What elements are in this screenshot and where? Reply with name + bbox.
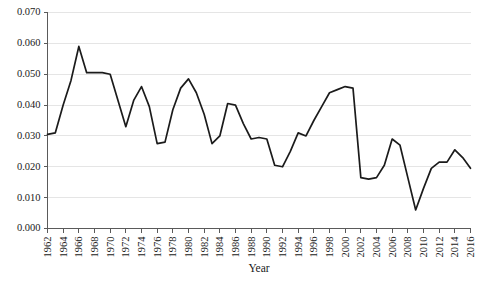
x-tick-label: 1976 bbox=[152, 237, 163, 258]
y-tick-label: 0.060 bbox=[17, 37, 41, 48]
chart-canvas: 0.0000.0100.0200.0300.0400.0500.0600.070… bbox=[0, 0, 479, 283]
x-tick-label: 1990 bbox=[261, 237, 272, 258]
x-tick-label: 2008 bbox=[402, 237, 413, 258]
x-tick-label: 1964 bbox=[58, 236, 69, 258]
x-tick-label: 1994 bbox=[293, 236, 304, 258]
x-tick-label: 1988 bbox=[246, 237, 257, 258]
y-tick-label: 0.020 bbox=[17, 161, 41, 172]
x-tick-label: 1982 bbox=[199, 237, 210, 258]
x-tick-label: 2006 bbox=[387, 237, 398, 258]
x-tick-label: 1968 bbox=[89, 237, 100, 258]
x-tick-label: 1984 bbox=[214, 236, 225, 258]
x-tick-label: 1980 bbox=[183, 237, 194, 258]
x-tick-label: 1962 bbox=[42, 237, 53, 258]
x-tick-label: 2004 bbox=[371, 236, 382, 258]
y-tick-label: 0.050 bbox=[17, 68, 41, 79]
x-tick-label: 1970 bbox=[105, 237, 116, 258]
gridlines bbox=[48, 13, 471, 198]
x-tick-label: 1966 bbox=[73, 237, 84, 258]
y-tick-label: 0.000 bbox=[17, 222, 41, 233]
x-tick-label: 1998 bbox=[324, 237, 335, 258]
x-tick-label: 1978 bbox=[167, 237, 178, 258]
y-axis: 0.0000.0100.0200.0300.0400.0500.0600.070 bbox=[17, 6, 48, 233]
x-tick-label: 1986 bbox=[230, 237, 241, 258]
x-tick-label: 2016 bbox=[465, 237, 476, 258]
series-line bbox=[48, 46, 471, 210]
line-chart: 0.0000.0100.0200.0300.0400.0500.0600.070… bbox=[0, 0, 479, 283]
x-tick-label: 1972 bbox=[120, 237, 131, 258]
data-series bbox=[48, 46, 471, 210]
x-tick-label: 1996 bbox=[308, 237, 319, 258]
y-tick-label: 0.010 bbox=[17, 192, 41, 203]
x-tick-label: 2014 bbox=[449, 236, 460, 258]
y-tick-label: 0.070 bbox=[17, 6, 41, 17]
x-tick-label: 2000 bbox=[340, 237, 351, 258]
x-axis-title: Year bbox=[248, 262, 269, 274]
x-tick-label: 1974 bbox=[136, 236, 147, 258]
x-tick-label: 2010 bbox=[418, 237, 429, 258]
y-tick-label: 0.040 bbox=[17, 99, 41, 110]
x-tick-label: 1992 bbox=[277, 237, 288, 258]
x-tick-label: 2002 bbox=[355, 237, 366, 258]
x-tick-label: 2012 bbox=[434, 237, 445, 258]
x-axis: 1962196419661968197019721974197619781980… bbox=[42, 229, 476, 258]
y-tick-label: 0.030 bbox=[17, 130, 41, 141]
